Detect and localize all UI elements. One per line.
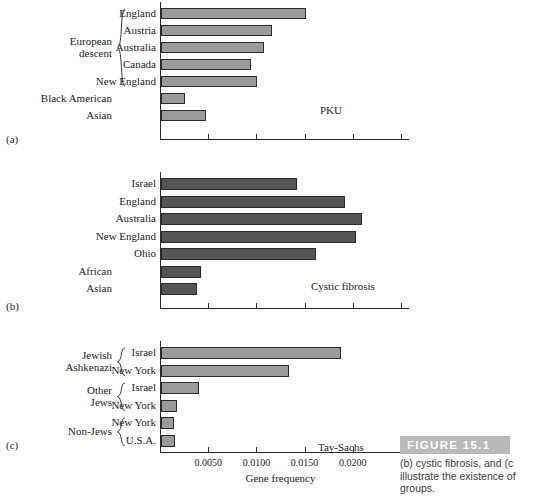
bar [161,382,199,394]
bar [161,213,362,225]
group-brace [116,8,127,87]
group-label: Non-Jews [2,426,112,438]
bar-row-label: England [119,196,160,207]
x-axis-tick [353,303,354,308]
bar [161,42,264,53]
bar [161,248,316,260]
x-axis-tick [305,134,306,139]
bar [161,417,174,429]
bar [161,76,257,87]
bar [161,196,345,208]
panel-letter-b: (b) [6,300,19,312]
group-brace [116,382,127,412]
x-axis-tick [353,134,354,139]
x-axis-line [160,308,409,309]
series-annotation: PKU [320,104,342,116]
group-label: African [2,266,112,278]
chart-panel-a: (a) EnglandAustriaAustraliaCanadaNew Eng… [0,0,537,165]
series-annotation: Tay-Sachs [318,441,364,453]
x-axis-tick-label: 0.0050 [194,457,222,468]
group-label: Jewish Ashkenazi [2,350,112,373]
panel-letter-a: (a) [6,133,18,145]
bar [161,110,206,121]
x-axis-tick-label: 0.0150 [291,457,319,468]
group-label: European descent [2,36,112,59]
x-axis-tick [401,303,402,308]
caption-line-3: groups. [400,482,537,495]
x-axis-title: Gene frequency [246,472,316,484]
bar-row-label: Canada [123,59,160,70]
x-axis-tick [305,303,306,308]
x-axis-tick [208,303,209,308]
bar [161,231,356,243]
bar [161,59,251,70]
bar [161,93,185,104]
group-brace [116,347,127,377]
group-brace [116,417,127,447]
bar [161,8,306,19]
x-axis-tick [208,447,209,452]
figure-badge: FIGURE 15.1 [400,436,510,454]
x-axis-tick [305,447,306,452]
caption-line-2: illustrate the existence of [400,470,537,483]
bar [161,25,272,36]
bar [161,266,201,278]
bar-row-label: Israel [132,178,160,189]
bar-row-label: Israel [132,347,160,358]
bar-row-label: Australia [116,213,160,224]
bar [161,365,289,377]
bar-row-label: Israel [132,382,160,393]
panel-letter-c: (c) [6,439,18,451]
x-axis-tick [401,134,402,139]
x-axis-tick-label: 0.0200 [339,457,367,468]
caption-line-1: (b) cystic fibrosis, and (c [400,457,537,470]
bar-row-label: New England [96,76,160,87]
bar-row-label: U.S.A. [126,435,160,446]
x-axis-line [160,139,409,140]
x-axis-tick-label: 0.0100 [243,457,271,468]
figure-caption: FIGURE 15.1 (b) cystic fibrosis, and (c … [400,436,537,495]
bar [161,347,341,359]
x-axis-tick [256,303,257,308]
x-axis-line [160,452,409,453]
bar [161,435,175,447]
bar [161,283,197,295]
group-label: Asian [2,283,112,295]
bar-row-label: Ohio [134,248,160,259]
bar-row-label: Austria [124,25,160,36]
x-axis-tick [256,134,257,139]
x-axis-tick [256,447,257,452]
x-axis-tick [208,134,209,139]
bar [161,400,177,412]
group-label: Black American [2,93,112,105]
bar [161,178,297,190]
figure-caption-text: (b) cystic fibrosis, and (c illustrate t… [400,457,537,495]
bar-row-label: New England [96,231,160,242]
chart-panel-b: (b) IsraelEnglandAustraliaNew EnglandOhi… [0,165,537,335]
group-label: Other Jews [2,385,112,408]
series-annotation: Cystic fibrosis [311,280,375,292]
group-label: Asian [2,110,112,122]
